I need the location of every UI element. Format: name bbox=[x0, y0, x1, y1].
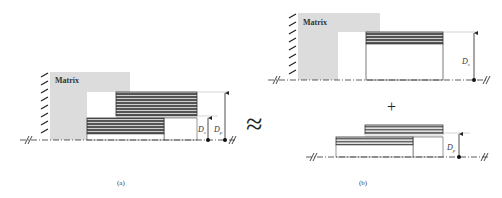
wall-hatch-icon bbox=[289, 14, 296, 74]
panel-b-top: Matrix Ds bbox=[268, 13, 490, 84]
approx-symbol: ≈ bbox=[246, 107, 262, 140]
upper-layer-block bbox=[366, 32, 443, 80]
diagram-canvas: Matrix bbox=[0, 0, 502, 198]
dim-label-s: Ds bbox=[461, 57, 470, 67]
plus-symbol: + bbox=[387, 98, 396, 115]
lower-layer-block bbox=[87, 118, 164, 140]
matrix-label: Matrix bbox=[55, 76, 79, 85]
dim-label-p: Dp bbox=[446, 143, 456, 153]
lower-layer-block bbox=[336, 137, 413, 157]
panel-a: Matrix bbox=[20, 72, 236, 187]
dim-label-s: Ds bbox=[197, 125, 206, 135]
dimension-arrow-s bbox=[206, 118, 210, 142]
caption-a: (a) bbox=[117, 179, 125, 187]
dimension-arrow-p bbox=[457, 134, 461, 159]
panel-b-bottom: Dp (b) bbox=[306, 125, 488, 187]
dimension-arrow-s bbox=[472, 33, 476, 82]
dim-label-p: Dp bbox=[213, 125, 223, 135]
caption-b: (b) bbox=[359, 179, 368, 187]
matrix-label: Matrix bbox=[303, 18, 327, 27]
wall-hatch-icon bbox=[41, 73, 48, 133]
dimension-arrow-p bbox=[223, 93, 227, 142]
